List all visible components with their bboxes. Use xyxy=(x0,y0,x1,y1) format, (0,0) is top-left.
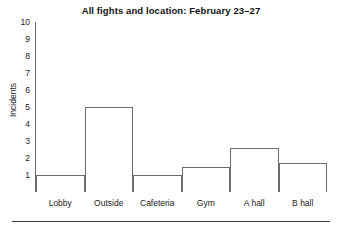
x-label-b-hall: B hall xyxy=(279,196,328,210)
y-tick-6: 6 xyxy=(8,86,30,95)
bar-a-hall xyxy=(230,148,279,192)
y-tick-7: 7 xyxy=(8,69,30,78)
bar-cafeteria xyxy=(133,175,182,192)
x-label-outside: Outside xyxy=(85,196,134,210)
bottom-divider xyxy=(12,221,330,222)
y-tick-4: 4 xyxy=(8,120,30,129)
x-label-cafeteria: Cafeteria xyxy=(133,196,182,210)
y-tick-9: 9 xyxy=(8,35,30,44)
bar-series xyxy=(36,22,327,192)
y-tick-10: 10 xyxy=(8,18,30,27)
y-tick-2: 2 xyxy=(8,154,30,163)
x-axis-labels: LobbyOutsideCafeteriaGymA hallB hall xyxy=(36,196,327,212)
chart-title: All fights and location: February 23–27 xyxy=(0,5,342,16)
x-label-lobby: Lobby xyxy=(36,196,85,210)
bar-chart: All fights and location: February 23–27 … xyxy=(0,0,342,233)
y-tick-1: 1 xyxy=(8,171,30,180)
x-label-a-hall: A hall xyxy=(230,196,279,210)
bar-lobby xyxy=(36,175,85,192)
y-tick-5: 5 xyxy=(8,103,30,112)
bar-b-hall xyxy=(279,163,328,192)
x-label-gym: Gym xyxy=(182,196,231,210)
y-tick-3: 3 xyxy=(8,137,30,146)
y-tick-8: 8 xyxy=(8,52,30,61)
bar-gym xyxy=(182,167,231,192)
bar-outside xyxy=(85,107,134,192)
